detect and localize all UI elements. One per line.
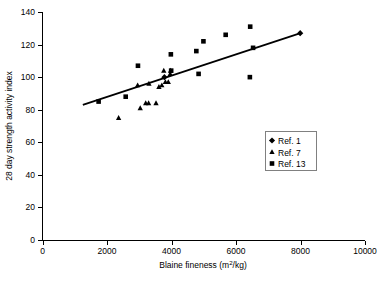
chart-canvas: 020406080100120140 020004000600080001000… [0,0,383,283]
data-point-square [136,63,141,68]
x-axis-title-text: Blaine fineness (m2/kg) [159,259,247,270]
trend-line [83,33,301,105]
legend-label: Ref. 1 [278,136,301,146]
data-point-triangle [116,115,121,120]
x-tick-label: 2000 [98,246,117,256]
x-tick-label: 0 [40,246,45,256]
y-tick-label-group: 020406080100120140 [21,7,35,245]
y-tick-group [38,13,43,241]
x-tick-label-group: 0200040006000800010000 [40,246,377,256]
x-tick-group [43,241,366,246]
y-tick-label: 40 [26,170,36,180]
y-axis-title: 28 day strength activity index [4,70,14,180]
data-point-square [248,75,253,80]
x-axis: 0200040006000800010000 [40,241,377,257]
legend-marker-square [270,161,275,166]
x-tick-label: 4000 [162,246,181,256]
data-point-triangle [153,100,158,105]
y-tick-label: 60 [26,137,36,147]
x-tick-label: 6000 [227,246,246,256]
y-tick-label: 140 [21,7,35,17]
y-tick-label: 20 [26,202,36,212]
x-tick-label: 8000 [291,246,310,256]
data-point-triangle [161,68,166,73]
x-tick-label: 10000 [353,246,377,256]
chart-legend: Ref. 1Ref. 7Ref. 13 [266,132,317,171]
y-tick-label: 80 [26,105,36,115]
y-tick-label: 0 [30,235,35,245]
data-point-triangle [138,105,143,110]
data-point-square [201,39,206,44]
data-point-square [123,94,128,99]
data-point-square [223,33,228,38]
y-axis-title-text: 28 day strength activity index [4,70,14,180]
y-tick-label: 120 [21,40,35,50]
data-point-square [248,24,253,29]
data-point-square [196,72,201,77]
y-tick-label: 100 [21,72,35,82]
legend-label: Ref. 7 [278,148,301,158]
scatter-chart: 020406080100120140 020004000600080001000… [0,0,383,283]
y-axis: 020406080100120140 [21,7,43,245]
x-axis-title: Blaine fineness (m2/kg) [159,259,247,270]
data-series-layer [96,24,303,120]
legend-label: Ref. 13 [278,159,306,169]
data-point-square [194,49,199,54]
data-point-square [169,68,174,73]
data-point-square [169,52,174,57]
